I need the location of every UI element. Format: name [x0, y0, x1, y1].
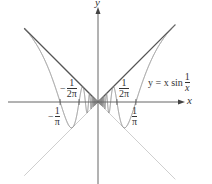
x-axis-label: x [187, 95, 192, 106]
tick-den: 2π [119, 88, 129, 99]
tick-num: 1 [122, 78, 127, 88]
y-axis-label: y [95, 0, 100, 8]
tick-num: 1 [55, 106, 60, 116]
x-axis-arrow-icon [178, 100, 185, 105]
tick-label-neg-1-over-pi: − 1 π [48, 106, 60, 127]
tick-label-neg-1-over-2pi: − 1 2π [60, 78, 77, 99]
tick-num: 1 [69, 78, 74, 88]
tick-den: 2π [67, 88, 77, 99]
lower-envelope-line [24, 102, 175, 179]
tick-den: π [132, 116, 137, 127]
function-label-den: x [185, 82, 189, 93]
tick-sign: − [60, 83, 66, 94]
function-label-prefix: y = x sin [148, 77, 183, 88]
tick-label-pos-1-over-2pi: 1 2π [119, 78, 129, 99]
function-label-num: 1 [185, 72, 190, 82]
y-axis-arrow-icon [96, 7, 101, 14]
function-label: y = x sin 1 x [148, 72, 190, 93]
tick-num: 1 [132, 106, 137, 116]
tick-label-pos-1-over-pi: 1 π [132, 106, 137, 127]
tick-den: π [55, 116, 60, 127]
tick-sign: − [48, 111, 54, 122]
